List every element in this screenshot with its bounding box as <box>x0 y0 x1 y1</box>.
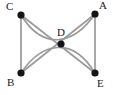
node-label-a: A <box>99 0 107 11</box>
node-label-d: D <box>57 27 65 38</box>
node-label-b: B <box>7 77 14 88</box>
node-label-e: E <box>97 78 104 89</box>
edge-b-e-curved <box>21 47 95 73</box>
node-c <box>17 11 24 18</box>
node-e <box>91 69 98 76</box>
node-label-c: C <box>6 1 13 12</box>
node-b <box>17 69 24 76</box>
node-a <box>91 10 98 17</box>
graph-figure: C A D B E <box>0 0 113 95</box>
node-d <box>57 40 64 47</box>
